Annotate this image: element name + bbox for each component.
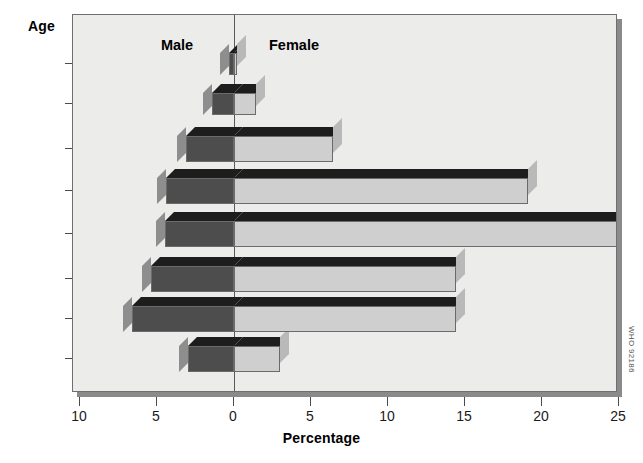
x-tick-mark	[541, 397, 542, 406]
x-tick-label: 15	[456, 408, 472, 424]
x-tick-label: 20	[533, 408, 549, 424]
x-tick-mark	[156, 397, 157, 406]
x-axis-ticks: 1050510152025	[0, 0, 643, 463]
x-tick-mark	[618, 397, 619, 406]
x-tick-mark	[310, 397, 311, 406]
x-tick-label: 10	[71, 408, 87, 424]
source-code-label: WHO 92186	[627, 326, 636, 373]
x-tick-mark	[233, 397, 234, 406]
x-tick-label: 5	[152, 408, 160, 424]
x-tick-mark	[464, 397, 465, 406]
x-tick-mark	[79, 397, 80, 406]
x-tick-label: 25	[610, 408, 626, 424]
x-tick-label: 10	[379, 408, 395, 424]
x-tick-label: 5	[306, 408, 314, 424]
x-tick-label: 0	[229, 408, 237, 424]
population-pyramid-chart: MaleFemale Age Percentage 60+50–5940–493…	[0, 0, 643, 463]
x-tick-mark	[387, 397, 388, 406]
